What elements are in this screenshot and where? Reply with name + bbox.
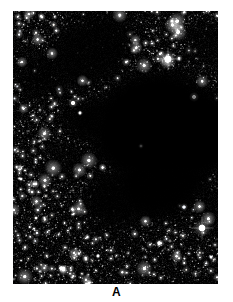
- astronomy-image-panel: [13, 11, 218, 284]
- panel-label-a: A: [0, 284, 233, 301]
- star-field-canvas: [13, 11, 218, 284]
- figure-root: A: [0, 0, 233, 302]
